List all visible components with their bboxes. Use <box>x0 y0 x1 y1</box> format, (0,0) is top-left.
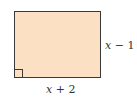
height-label: x − 1 <box>105 39 134 52</box>
right-angle-marker-icon <box>15 69 23 77</box>
height-expression: − 1 <box>111 39 134 52</box>
width-label: x + 2 <box>46 83 75 96</box>
width-expression: + 2 <box>52 83 75 96</box>
rectangle <box>14 11 101 78</box>
